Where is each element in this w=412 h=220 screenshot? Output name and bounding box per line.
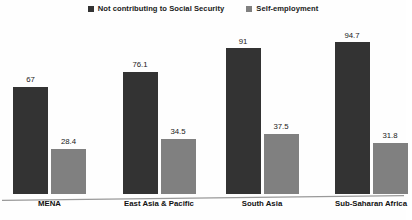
bar-self-employment[interactable] bbox=[373, 143, 408, 194]
bar-value-label: 37.5 bbox=[273, 123, 288, 131]
bar-column[interactable]: 67 bbox=[13, 18, 48, 194]
bar-column[interactable]: 91 bbox=[226, 18, 261, 194]
bar-group: 94.731.8 bbox=[335, 18, 408, 194]
bar-value-label: 67 bbox=[26, 76, 35, 84]
x-axis-line bbox=[0, 188, 406, 196]
bar-value-label: 31.8 bbox=[382, 132, 397, 140]
legend-item-not-contributing: Not contributing to Social Security bbox=[88, 5, 225, 13]
legend-swatch-square-icon bbox=[246, 6, 252, 12]
bar-self-employment[interactable] bbox=[264, 134, 299, 194]
bar-not-contributing[interactable] bbox=[335, 42, 370, 194]
legend-item-label: Self-employment bbox=[256, 5, 318, 13]
legend-swatch-square-icon bbox=[88, 6, 94, 12]
bar-value-label: 91 bbox=[239, 38, 248, 46]
bar-not-contributing[interactable] bbox=[123, 72, 158, 194]
bar-not-contributing[interactable] bbox=[226, 48, 261, 194]
category-label: Sub-Saharan Africa bbox=[301, 200, 412, 209]
bar-value-label: 94.7 bbox=[344, 32, 359, 40]
bar-group: 76.134.5 bbox=[123, 18, 196, 194]
bar-column[interactable]: 76.1 bbox=[123, 18, 158, 194]
bar-column[interactable]: 28.4 bbox=[51, 18, 86, 194]
bar-value-label: 76.1 bbox=[132, 61, 147, 69]
legend-item-self-employment: Self-employment bbox=[246, 5, 318, 13]
bar-column[interactable]: 37.5 bbox=[264, 18, 299, 194]
bar-column[interactable]: 94.7 bbox=[335, 18, 370, 194]
plot-area: 6728.476.134.59137.594.731.8 bbox=[0, 18, 406, 194]
bar-not-contributing[interactable] bbox=[13, 87, 48, 194]
bar-group: 9137.5 bbox=[226, 18, 299, 194]
bar-column[interactable]: 31.8 bbox=[373, 18, 408, 194]
bar-group: 6728.4 bbox=[13, 18, 86, 194]
bar-self-employment[interactable] bbox=[161, 139, 196, 194]
legend-item-label: Not contributing to Social Security bbox=[98, 5, 225, 13]
bar-value-label: 28.4 bbox=[61, 138, 76, 146]
chart-legend: Not contributing to Social Security Self… bbox=[0, 2, 406, 16]
bar-column[interactable]: 34.5 bbox=[161, 18, 196, 194]
bar-value-label: 34.5 bbox=[170, 128, 185, 136]
category-axis-labels: MENAEast Asia & PacificSouth AsiaSub-Sah… bbox=[0, 200, 406, 218]
